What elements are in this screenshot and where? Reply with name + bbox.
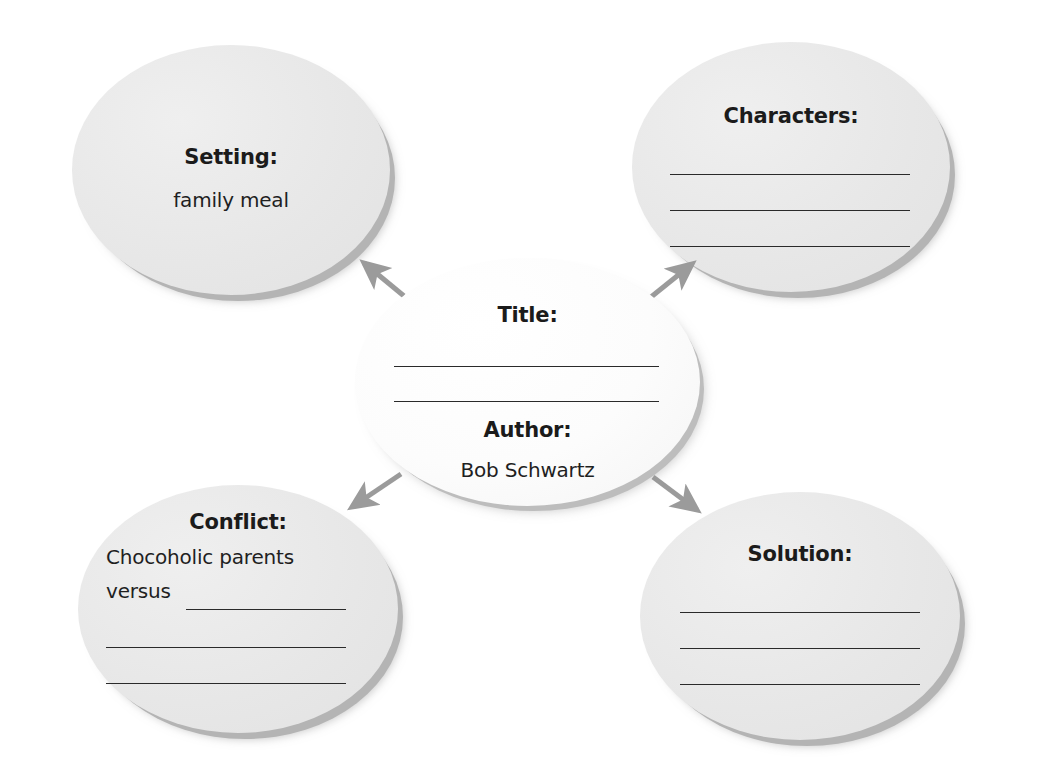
- title-heading: Title:: [355, 303, 700, 327]
- bubble-conflict[interactable]: Conflict: Chocoholic parents versus: [78, 485, 398, 733]
- bubble-setting[interactable]: Setting: family meal: [72, 45, 390, 295]
- characters-heading: Characters:: [632, 104, 950, 128]
- conflict-blank-line-3[interactable]: [106, 683, 346, 684]
- characters-blank-line-3[interactable]: [670, 246, 910, 247]
- bubble-setting-content: Setting: family meal: [72, 45, 390, 295]
- solution-heading: Solution:: [640, 542, 960, 566]
- setting-heading: Setting:: [72, 145, 390, 169]
- characters-blank-line-1[interactable]: [670, 174, 910, 175]
- conflict-heading: Conflict:: [78, 510, 398, 534]
- conflict-line-2: versus: [106, 579, 171, 603]
- author-heading: Author:: [355, 418, 700, 442]
- bubble-characters[interactable]: Characters:: [632, 42, 950, 292]
- bubble-solution[interactable]: Solution:: [640, 492, 960, 740]
- author-value: Bob Schwartz: [355, 458, 700, 482]
- title-blank-line-1[interactable]: [394, 366, 659, 367]
- characters-blank-line-2[interactable]: [670, 210, 910, 211]
- bubble-solution-content: Solution:: [640, 492, 960, 740]
- conflict-line-1: Chocoholic parents: [106, 545, 294, 569]
- solution-blank-line-1[interactable]: [680, 612, 920, 613]
- bubble-title-author[interactable]: Title: Author: Bob Schwartz: [355, 258, 700, 506]
- solution-blank-line-3[interactable]: [680, 684, 920, 685]
- title-blank-line-2[interactable]: [394, 401, 659, 402]
- bubble-title-content: Title: Author: Bob Schwartz: [355, 258, 700, 506]
- conflict-blank-line-2[interactable]: [106, 647, 346, 648]
- conflict-blank-line-1[interactable]: [186, 609, 346, 610]
- story-map-canvas: Setting: family meal Characters: Title: …: [0, 0, 1040, 764]
- bubble-conflict-content: Conflict: Chocoholic parents versus: [78, 485, 398, 733]
- setting-value: family meal: [72, 188, 390, 212]
- solution-blank-line-2[interactable]: [680, 648, 920, 649]
- bubble-characters-content: Characters:: [632, 42, 950, 292]
